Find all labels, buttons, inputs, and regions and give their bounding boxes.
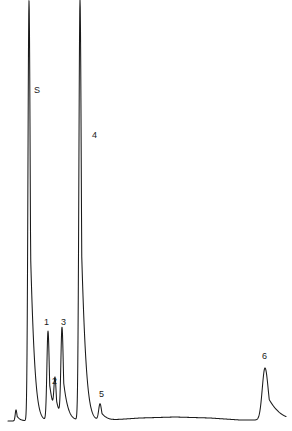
peak-label-5: 5: [99, 390, 104, 399]
peak-label-1: 1: [44, 318, 49, 327]
chromatogram-trace-svg: [0, 0, 292, 431]
peak-label-3: 3: [61, 318, 66, 327]
peak-label-2: 2: [52, 377, 57, 386]
peak-label-4: 4: [92, 131, 97, 140]
chromatogram-signal-path: [8, 0, 286, 421]
peak-label-s: S: [34, 86, 40, 95]
peak-label-6: 6: [262, 352, 267, 361]
chromatogram-figure: S123456: [0, 0, 292, 431]
